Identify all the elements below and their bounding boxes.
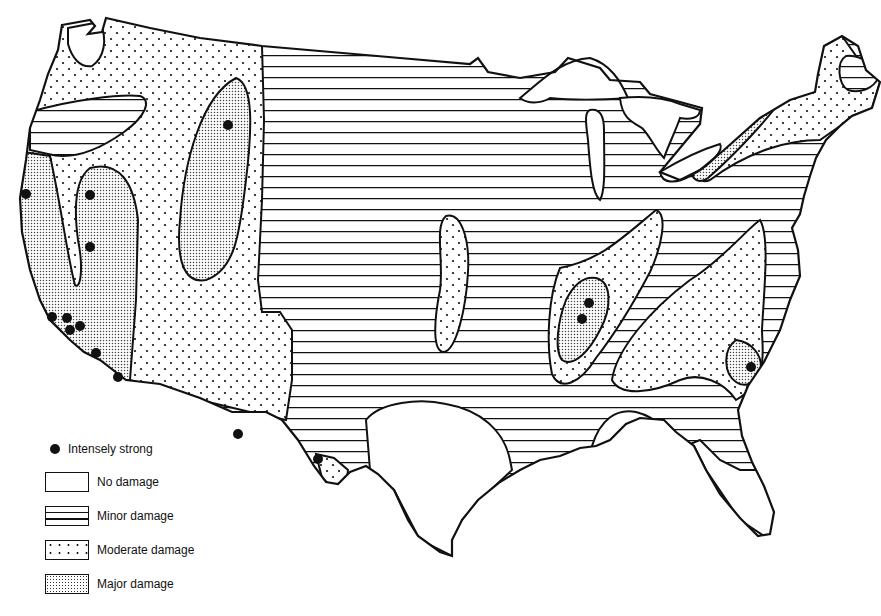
intense-point [233,429,243,439]
legend-label: Moderate damage [97,543,194,557]
zone-maine-minor [839,56,878,91]
intense-point [65,325,75,335]
legend-label: No damage [97,475,159,489]
legend-item-major: Major damage [45,574,174,594]
intense-point [62,313,72,323]
moderate-damage-swatch-icon [45,540,89,560]
intense-point [75,321,85,331]
legend-item-minor: Minor damage [45,506,174,526]
legend-label: Intensely strong [68,442,153,456]
intense-point [85,190,95,200]
intense-point [584,298,594,308]
no-damage-swatch-icon [45,472,89,492]
legend-item-moderate: Moderate damage [45,540,194,560]
intense-point [21,189,31,199]
intense-dot-icon [50,444,60,454]
intense-point [577,314,587,324]
major-damage-swatch-icon [45,574,89,594]
legend-item-intense: Intensely strong [45,442,153,456]
intense-point [223,120,233,130]
legend-label: Minor damage [97,509,174,523]
intense-point [85,242,95,252]
intense-point [746,362,756,372]
intense-point [313,454,323,464]
legend-item-no-damage: No damage [45,472,159,492]
legend-label: Major damage [97,577,174,591]
minor-damage-swatch-icon [45,506,89,526]
zone-texas-no-damage [366,401,512,556]
